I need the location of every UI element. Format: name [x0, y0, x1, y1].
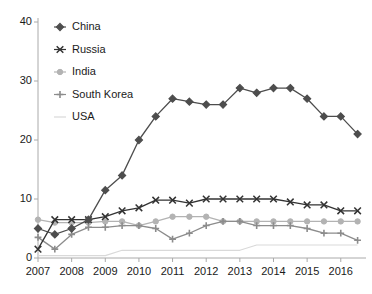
- x-axis-tick-label: 2013: [223, 265, 257, 277]
- data-point: [203, 101, 210, 108]
- series-india: [35, 214, 360, 228]
- data-point: [355, 219, 360, 224]
- x-axis-tick-label: 2012: [189, 265, 223, 277]
- data-point: [102, 224, 109, 231]
- legend-label-china: China: [72, 20, 101, 32]
- legend-marker-china: [56, 23, 63, 30]
- data-point: [304, 225, 311, 232]
- data-point: [338, 219, 343, 224]
- data-point: [337, 230, 344, 237]
- x-axis-tick-label: 2016: [324, 265, 358, 277]
- legend-label-south-korea: South Korea: [72, 88, 133, 100]
- series-russia: [35, 196, 361, 253]
- x-axis-tick-label: 2008: [55, 265, 89, 277]
- series-usa: [38, 245, 358, 256]
- data-point: [152, 225, 159, 232]
- legend-label-russia: Russia: [72, 43, 106, 55]
- data-point: [270, 84, 277, 91]
- axis-layer: [34, 18, 366, 262]
- data-point: [253, 89, 260, 96]
- data-point: [204, 214, 209, 219]
- legend-marker-south-korea: [57, 91, 64, 98]
- x-axis-tick-label: 2014: [256, 265, 290, 277]
- data-point: [35, 217, 40, 222]
- x-axis-tick-label: 2011: [156, 265, 190, 277]
- data-point: [34, 225, 41, 232]
- data-point: [170, 214, 175, 219]
- x-axis-tick-label: 2010: [122, 265, 156, 277]
- legend-label-usa: USA: [72, 110, 95, 122]
- series-line: [38, 245, 358, 256]
- legend-marker-india: [57, 69, 62, 74]
- data-point: [203, 222, 210, 229]
- legend-marker-layer: [54, 23, 66, 117]
- data-point: [85, 224, 92, 231]
- data-point: [51, 231, 58, 238]
- data-point: [186, 230, 193, 237]
- data-point: [68, 225, 75, 232]
- y-axis-tick-label: 0: [6, 251, 32, 263]
- data-point: [136, 222, 143, 229]
- y-axis-tick-label: 30: [6, 74, 32, 86]
- data-point: [287, 84, 294, 91]
- series-china: [34, 84, 361, 238]
- y-axis-tick-label: 20: [6, 133, 32, 145]
- x-axis-tick-label: 2015: [290, 265, 324, 277]
- legend-label-india: India: [72, 65, 96, 77]
- x-axis-tick-label: 2009: [88, 265, 122, 277]
- data-point: [186, 98, 193, 105]
- line-chart: 403020100 200720082009201020112012201320…: [0, 0, 372, 294]
- data-point: [220, 218, 227, 225]
- x-axis-tick-label: 2007: [21, 265, 55, 277]
- chart-canvas: [0, 0, 372, 294]
- data-point: [169, 236, 176, 243]
- data-point: [236, 218, 243, 225]
- data-point: [187, 214, 192, 219]
- data-point: [304, 219, 309, 224]
- y-axis-tick-label: 40: [6, 15, 32, 27]
- data-point: [321, 230, 328, 237]
- data-point: [354, 237, 361, 244]
- y-axis-tick-label: 10: [6, 192, 32, 204]
- data-point: [321, 219, 326, 224]
- data-point: [153, 219, 158, 224]
